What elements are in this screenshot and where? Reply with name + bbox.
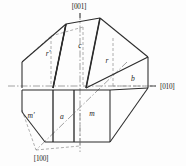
face-label-a: a <box>60 112 64 121</box>
hidden-edge-bottom-center <box>36 146 80 150</box>
face-label-c: c <box>78 41 82 50</box>
axis-label-a: [100] <box>34 155 49 163</box>
face-label-r: r <box>106 56 109 65</box>
face-label-b: b <box>131 74 135 83</box>
axis-label-c: [001] <box>72 3 87 11</box>
crystal-upper-outline-group <box>22 18 148 88</box>
hidden-edge-rear-top-left <box>51 27 83 36</box>
face-label-m: m <box>89 109 95 118</box>
edge-r-slope-right <box>86 18 100 88</box>
edge-upper-ridge-left <box>66 18 100 24</box>
crystal-diagram-figure: [001] [010] [100] m' a m r' c r b <box>0 0 186 166</box>
edge-upper-ridge-right <box>100 18 148 57</box>
edge-r-face-front <box>86 57 148 88</box>
edge-waist-front-right <box>110 88 148 90</box>
edge-lower-right-slope <box>110 88 148 142</box>
axis-tick-group <box>80 13 156 86</box>
face-label-m-prime: m' <box>27 111 34 120</box>
crystal-lower-outline-group <box>22 88 148 142</box>
crystal-drawing-canvas: [001] [010] [100] m' a m r' c r b <box>0 0 186 166</box>
face-label-r-prime: r' <box>46 49 51 58</box>
axis-label-b: [010] <box>160 83 175 91</box>
crystal-waist-group <box>22 88 148 90</box>
